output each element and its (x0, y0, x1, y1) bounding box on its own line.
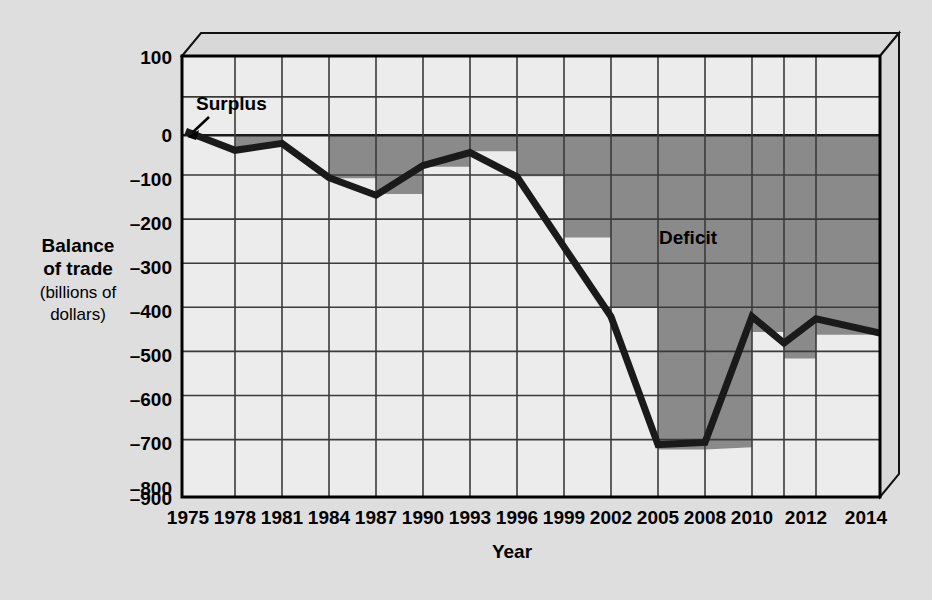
x-tick-label: 2012 (785, 507, 827, 528)
y-axis-title-line-1: Balance (42, 235, 115, 256)
y-axis-subtitle-line-2: dollars) (50, 305, 106, 324)
y-tick-label: –700 (130, 433, 172, 454)
y-tick-label: 100 (140, 47, 172, 68)
surplus-label: Surplus (196, 93, 267, 114)
x-tick-label: 1993 (449, 507, 491, 528)
x-tick-label: 2005 (637, 507, 680, 528)
chart-figure: 100 0 –100 –200 –300 –400 –500 –600 –700… (0, 0, 932, 600)
y-tick-label: –600 (130, 389, 172, 410)
y-axis-title: Balance of trade (billions of dollars) (40, 235, 117, 324)
deficit-label: Deficit (659, 227, 718, 248)
x-tick-label: 1978 (214, 507, 256, 528)
y-axis-tick-labels: 100 0 –100 –200 –300 –400 –500 –600 –700… (130, 47, 172, 509)
x-tick-label: 1996 (496, 507, 538, 528)
y-tick-label: –400 (130, 301, 172, 322)
y-tick-label: –900 (130, 488, 172, 509)
y-axis-title-line-2: of trade (43, 258, 113, 279)
x-tick-label: 2010 (731, 507, 773, 528)
x-tick-label: 1987 (355, 507, 397, 528)
y-tick-label: 0 (161, 125, 172, 146)
x-tick-label: 2014 (845, 507, 888, 528)
y-tick-label: –500 (130, 345, 172, 366)
y-tick-label: –300 (130, 257, 172, 278)
x-tick-label: 1990 (402, 507, 444, 528)
y-tick-label: –200 (130, 213, 172, 234)
x-tick-label: 1975 (167, 507, 210, 528)
panel-3d-top (182, 33, 899, 56)
x-axis-tick-labels: 1975 1978 1981 1984 1987 1990 1993 1996 … (167, 507, 888, 528)
x-axis-title: Year (492, 541, 533, 562)
y-tick-label: –100 (130, 169, 172, 190)
x-tick-label: 2008 (684, 507, 726, 528)
x-tick-label: 2002 (590, 507, 632, 528)
x-tick-label: 1981 (261, 507, 304, 528)
y-axis-subtitle-line-1: (billions of (40, 283, 117, 302)
balance-of-trade-line-chart: 100 0 –100 –200 –300 –400 –500 –600 –700… (0, 0, 932, 600)
x-tick-label: 1999 (543, 507, 585, 528)
panel-3d-right (880, 33, 899, 497)
x-tick-label: 1984 (308, 507, 351, 528)
